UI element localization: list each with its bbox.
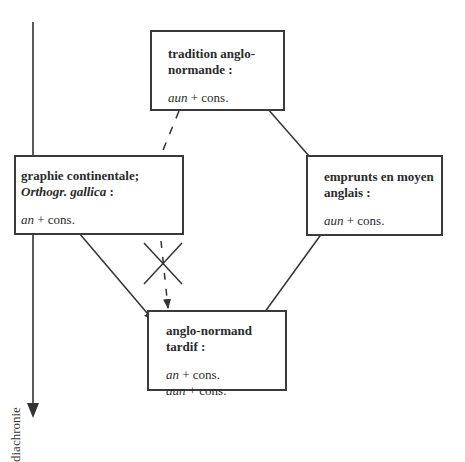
title-italic: Orthogr. gallica: [21, 184, 106, 199]
edge-left-to-bottom: [68, 220, 153, 320]
form-italic: aun: [324, 213, 344, 228]
node-title: emprunts en moyen anglais :: [324, 169, 441, 201]
title-line: anglo-normand: [166, 323, 285, 339]
cross-out-icon: [144, 243, 182, 284]
form-italic: an: [21, 212, 34, 227]
form-rest: + cons.: [186, 383, 227, 398]
node-tradition-anglo-normande: tradition anglo- normande : aun + cons.: [150, 30, 285, 111]
form-rest: + cons.: [344, 213, 385, 228]
edge-right-to-bottom: [259, 229, 325, 320]
form-line: an + cons.: [166, 367, 285, 383]
form-line: aun + cons.: [324, 213, 441, 229]
title-line: tardif :: [166, 339, 285, 355]
node-anglo-normand-tardif: anglo-normand tardif : an + cons. aun + …: [147, 310, 287, 391]
form-italic: aun: [168, 90, 188, 105]
edge-crossed-dashed: [161, 241, 168, 308]
node-forms: aun + cons.: [168, 90, 283, 106]
form-rest: + cons.: [179, 367, 220, 382]
node-forms: aun + cons.: [324, 213, 441, 229]
title-line: tradition anglo-: [168, 46, 283, 62]
node-title: anglo-normand tardif :: [166, 323, 285, 355]
axis-arrow-icon: [27, 403, 39, 418]
title-line: Orthogr. gallica :: [21, 184, 182, 200]
title-line: graphie continentale;: [21, 168, 182, 184]
node-graphie-continentale: graphie continentale; Orthogr. gallica :…: [14, 155, 184, 235]
node-title: graphie continentale; Orthogr. gallica :: [21, 168, 182, 200]
form-line: aun + cons.: [166, 383, 285, 399]
node-emprunts-moyen-anglais: emprunts en moyen anglais : aun + cons.: [306, 155, 443, 236]
title-line: emprunts en moyen: [324, 169, 441, 185]
form-italic: aun: [166, 383, 186, 398]
axis-label-diachronie: diachronie: [8, 402, 24, 462]
form-italic: an: [166, 367, 179, 382]
form-line: an + cons.: [21, 212, 182, 228]
form-rest: + cons.: [188, 90, 229, 105]
title-line: anglais :: [324, 185, 441, 201]
node-forms: an + cons.: [21, 212, 182, 228]
edge-top-to-left: [161, 111, 179, 155]
form-rest: + cons.: [34, 212, 75, 227]
title-rest: :: [106, 184, 114, 199]
node-title: tradition anglo- normande :: [168, 46, 283, 78]
title-line: normande :: [168, 62, 283, 78]
node-forms: an + cons. aun + cons.: [166, 367, 285, 399]
form-line: aun + cons.: [168, 90, 283, 106]
